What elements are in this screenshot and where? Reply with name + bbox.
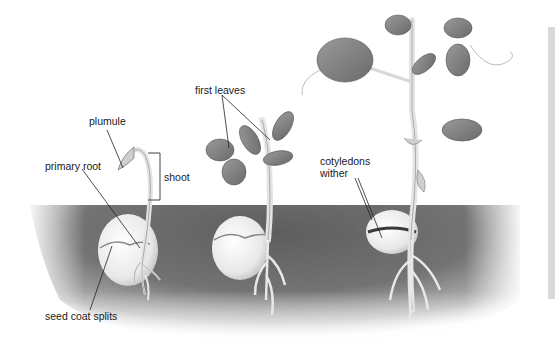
- germination-diagram: plumule primary root shoot seed coat spl…: [0, 0, 555, 349]
- diagram-illustration: [0, 0, 555, 349]
- soil: [25, 205, 525, 349]
- label-wither: wither: [320, 167, 348, 179]
- label-first-leaves: first leaves: [195, 84, 245, 96]
- label-plumule: plumule: [89, 115, 126, 127]
- label-seed-coat-splits: seed coat splits: [45, 310, 117, 322]
- side-bar: [548, 27, 555, 299]
- plumule-line: [107, 130, 123, 168]
- label-primary-root: primary root: [45, 160, 101, 172]
- label-cotyledons: cotyledons: [320, 155, 370, 167]
- label-shoot: shoot: [164, 171, 190, 183]
